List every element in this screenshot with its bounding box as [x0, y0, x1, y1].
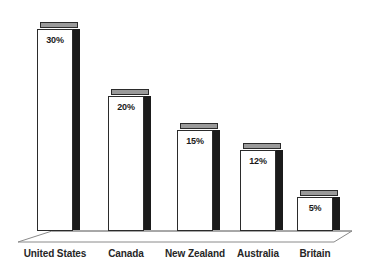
- bar-value-label: 5%: [297, 203, 333, 213]
- bar-side-face: [276, 150, 283, 230]
- bar-top-face: [300, 190, 338, 196]
- bar-side-face: [144, 96, 151, 230]
- bar-top-face: [243, 143, 281, 149]
- bar-group[interactable]: 5%: [297, 190, 340, 231]
- bar-value-label: 15%: [177, 136, 213, 146]
- bar-front-face: [37, 29, 73, 231]
- bar-value-label: 30%: [37, 35, 73, 45]
- bar-side-face: [333, 197, 340, 230]
- bar-group[interactable]: 30%: [37, 22, 80, 231]
- bar-chart: 30%United States20%Canada15%New Zealand1…: [0, 0, 368, 271]
- bar-group[interactable]: 20%: [108, 89, 151, 231]
- bar-group[interactable]: 15%: [177, 123, 220, 231]
- floor-slab: [18, 231, 352, 242]
- bar-value-label: 12%: [240, 156, 276, 166]
- bar-front-face: [108, 96, 144, 231]
- bar-side-face: [213, 130, 220, 230]
- bar-value-label: 20%: [108, 102, 144, 112]
- bar-side-face: [73, 29, 80, 230]
- bar-top-face: [111, 89, 149, 95]
- bar-group[interactable]: 12%: [240, 143, 283, 231]
- bar-top-face: [180, 123, 218, 129]
- bar-top-face: [40, 22, 78, 28]
